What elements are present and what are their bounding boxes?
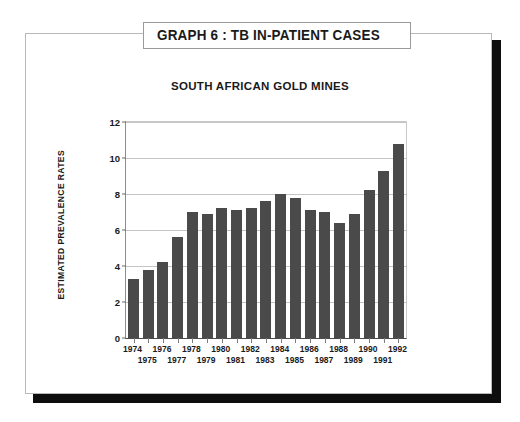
y-axis-title: ESTIMATED PREVALENCE RATES (56, 0, 66, 150)
x-axis-label: 1975 (138, 355, 157, 365)
bar (290, 198, 301, 338)
bar (216, 208, 227, 338)
bar (260, 201, 271, 338)
x-axis-label: 1981 (226, 355, 245, 365)
bar (319, 212, 330, 338)
y-axis-tick-label: 10 (109, 153, 120, 164)
x-axis-label: 1991 (373, 355, 392, 365)
x-axis-label: 1983 (256, 355, 275, 365)
poster-title: GRAPH 6 : TB IN-PATIENT CASES (157, 27, 380, 43)
x-axis-tick (364, 338, 375, 343)
y-axis-tick-label: 6 (115, 225, 120, 236)
x-axis-label: 1992 (388, 344, 407, 354)
x-axis-label: 1976 (152, 344, 171, 354)
x-axis-tick (275, 338, 286, 343)
y-axis-title-text: ESTIMATED PREVALENCE RATES (56, 150, 66, 331)
x-axis-tick (216, 338, 227, 343)
bar (393, 144, 404, 338)
chart-title: SOUTH AFRICAN GOLD MINES (0, 80, 520, 92)
x-axis-label: 1982 (241, 344, 260, 354)
x-axis-label: 1974 (123, 344, 142, 354)
poster-shadow-right (492, 40, 501, 403)
bar (378, 171, 389, 338)
x-axis-label: 1987 (314, 355, 333, 365)
x-axis-tick (378, 338, 389, 343)
x-axis-label: 1980 (211, 344, 230, 354)
x-axis-tick (202, 338, 213, 343)
x-axis-ticks (126, 338, 406, 343)
x-axis-label: 1979 (197, 355, 216, 365)
x-axis-tick (349, 338, 360, 343)
bar (349, 214, 360, 338)
x-axis-labels: 1974197519761977197819791980198119821983… (125, 344, 405, 374)
x-axis-tick (334, 338, 345, 343)
y-axis-tick-label: 2 (115, 297, 120, 308)
x-axis-label: 1990 (359, 344, 378, 354)
bar (143, 270, 154, 338)
x-axis-label: 1984 (270, 344, 289, 354)
x-axis-tick (172, 338, 183, 343)
poster-shadow-bottom (33, 394, 501, 403)
y-axis-tick-label: 4 (115, 261, 120, 272)
x-axis-tick (319, 338, 330, 343)
x-axis-tick (393, 338, 404, 343)
x-axis-tick (157, 338, 168, 343)
bar (305, 210, 316, 338)
x-axis-label: 1986 (300, 344, 319, 354)
bar (172, 237, 183, 338)
x-axis-tick (260, 338, 271, 343)
bar (246, 208, 257, 338)
bar (334, 223, 345, 338)
x-axis-label: 1978 (182, 344, 201, 354)
bar (364, 190, 375, 338)
bar-series (126, 122, 406, 338)
plot-area: 024681012 (125, 121, 407, 339)
y-axis-tick-label: 8 (115, 189, 120, 200)
x-axis-label: 1988 (329, 344, 348, 354)
poster-page: GRAPH 6 : TB IN-PATIENT CASES SOUTH AFRI… (0, 0, 520, 422)
bar (275, 194, 286, 338)
x-axis-tick (128, 338, 139, 343)
x-axis-label: 1989 (344, 355, 363, 365)
x-axis-tick (187, 338, 198, 343)
x-axis-tick (143, 338, 154, 343)
x-axis-tick (231, 338, 242, 343)
bar (128, 279, 139, 338)
x-axis-tick (290, 338, 301, 343)
x-axis-tick (246, 338, 257, 343)
poster-title-plaque: GRAPH 6 : TB IN-PATIENT CASES (143, 22, 411, 49)
x-axis-label: 1977 (167, 355, 186, 365)
bar (157, 262, 168, 338)
x-axis-tick (305, 338, 316, 343)
y-axis-tick-label: 0 (115, 333, 120, 344)
bar (202, 214, 213, 338)
y-axis-tick-label: 12 (109, 117, 120, 128)
bar (231, 210, 242, 338)
x-axis-label: 1985 (285, 355, 304, 365)
bar (187, 212, 198, 338)
